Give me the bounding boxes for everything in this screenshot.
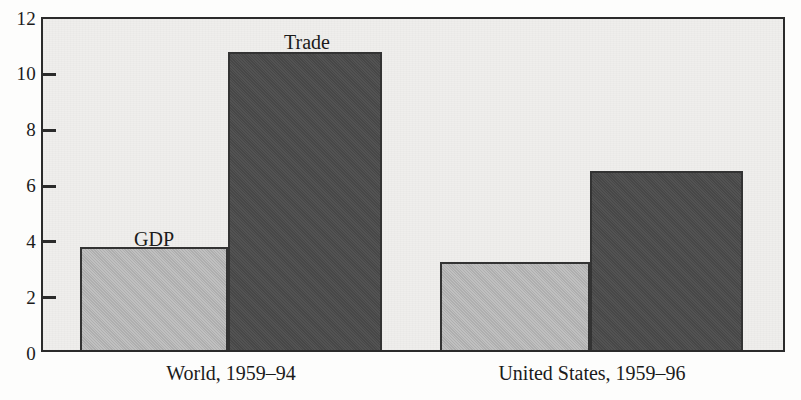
y-tick-label-10: 10 — [4, 64, 36, 83]
series-label-gdp: GDP — [134, 228, 174, 250]
y-tick-label-6: 6 — [4, 176, 36, 195]
y-tick-label-12: 12 — [4, 9, 36, 28]
y-tick-label-2: 2 — [4, 288, 36, 307]
y-tick-mark-10 — [43, 73, 56, 76]
bar-us-gdp — [440, 262, 590, 350]
y-axis-tick-labels: 12 10 8 6 4 2 0 — [0, 0, 36, 400]
y-tick-label-0: 0 — [4, 344, 36, 363]
y-tick-mark-8 — [43, 129, 56, 132]
bar-us-trade — [590, 171, 743, 350]
y-tick-mark-6 — [43, 185, 56, 188]
bar-world-gdp — [80, 247, 228, 350]
bar-chart-figure: 12 10 8 6 4 2 0 GDP Trade World, 1959–94… — [0, 0, 801, 400]
y-tick-label-4: 4 — [4, 232, 36, 251]
plot-area: GDP Trade — [41, 17, 785, 352]
y-tick-label-8: 8 — [4, 120, 36, 139]
bar-world-trade — [228, 52, 382, 350]
x-group-label-united-states: United States, 1959–96 — [498, 362, 685, 384]
series-label-trade: Trade — [284, 31, 330, 53]
x-group-label-world: World, 1959–94 — [166, 362, 296, 384]
y-tick-mark-2 — [43, 296, 56, 299]
y-tick-mark-4 — [43, 240, 56, 243]
